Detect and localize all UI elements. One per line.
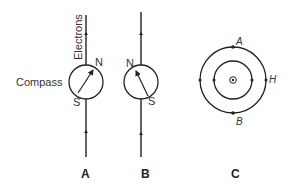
compass-a-north-label: N xyxy=(95,56,103,68)
outer-left-marker xyxy=(199,79,202,82)
compass-label: Compass xyxy=(16,76,63,88)
panel-b: N S B xyxy=(124,12,158,181)
compass-a xyxy=(69,65,103,99)
wire-b-arrow-icon xyxy=(139,132,143,135)
point-h-label: H xyxy=(269,74,277,85)
magnetic-field-diagram: Electrons Compass N S A N S B A H B C xyxy=(0,0,291,185)
wire-a-arrow-icon xyxy=(84,32,88,35)
point-b-label: B xyxy=(236,116,243,127)
panel-label-c: C xyxy=(231,167,240,181)
wire-a-arrow-icon xyxy=(84,130,88,133)
point-h-marker xyxy=(265,79,268,82)
panel-a: Electrons Compass N S A xyxy=(16,14,103,181)
inner-left-marker xyxy=(213,79,216,82)
compass-a-south-label: S xyxy=(73,96,80,108)
panel-label-a: A xyxy=(81,167,90,181)
point-a-marker xyxy=(231,45,235,49)
wire-b-arrow-icon xyxy=(139,32,143,35)
compass-b-north-label: N xyxy=(126,57,134,69)
compass-b-needle xyxy=(136,71,148,96)
panel-c: A H B C xyxy=(199,36,278,181)
compass-b-south-label: S xyxy=(148,95,155,107)
point-b-marker xyxy=(231,111,235,115)
inner-right-marker xyxy=(251,79,254,82)
wire-label-electrons: Electrons xyxy=(72,14,84,60)
panel-label-b: B xyxy=(141,167,150,181)
compass-a-needle xyxy=(78,70,93,93)
current-dot-icon xyxy=(232,79,234,81)
point-a-label: A xyxy=(235,36,243,47)
